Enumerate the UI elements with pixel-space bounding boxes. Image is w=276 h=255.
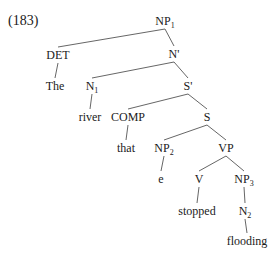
node-label: N bbox=[239, 204, 248, 218]
tree-node-stopped: stopped bbox=[178, 205, 215, 217]
tree-branch bbox=[244, 187, 245, 203]
node-label: COMP bbox=[111, 110, 145, 124]
tree-branch bbox=[126, 125, 128, 140]
tree-branch bbox=[199, 156, 226, 171]
tree-branch bbox=[128, 94, 188, 109]
tree-node-e: e bbox=[158, 173, 163, 185]
tree-node-det: DET bbox=[46, 49, 69, 61]
node-subscript: 1 bbox=[171, 21, 175, 30]
tree-node-vp: VP bbox=[218, 142, 233, 154]
tree-branch bbox=[161, 156, 164, 171]
tree-branch bbox=[55, 63, 58, 78]
node-subscript: 3 bbox=[250, 179, 254, 188]
node-label: V bbox=[195, 172, 204, 186]
tree-node-np3: NP3 bbox=[234, 173, 253, 185]
node-label: stopped bbox=[178, 204, 215, 218]
tree-branch bbox=[174, 62, 188, 78]
tree-branch bbox=[245, 219, 247, 233]
tree-node-the: The bbox=[46, 80, 65, 92]
tree-branch bbox=[207, 125, 226, 140]
node-label: DET bbox=[46, 48, 69, 62]
node-label: S' bbox=[184, 79, 193, 93]
node-label: S bbox=[204, 110, 211, 124]
tree-node-s: S bbox=[204, 111, 211, 123]
node-subscript: 2 bbox=[247, 211, 251, 220]
tree-node-flooding: flooding bbox=[227, 235, 268, 247]
node-label: NP bbox=[154, 141, 169, 155]
tree-branch bbox=[90, 94, 92, 109]
tree-branch bbox=[58, 29, 165, 47]
tree-branch bbox=[188, 94, 207, 109]
node-label: NP bbox=[155, 14, 170, 28]
tree-node-n2: N2 bbox=[239, 205, 252, 217]
tree-branch bbox=[165, 29, 174, 46]
tree-branch bbox=[197, 187, 199, 203]
node-label: river bbox=[79, 110, 102, 124]
tree-node-nbar: N' bbox=[169, 48, 180, 60]
tree-node-v: V bbox=[195, 173, 204, 185]
node-label: that bbox=[117, 141, 135, 155]
tree-edges bbox=[0, 0, 276, 255]
tree-node-that: that bbox=[117, 142, 135, 154]
tree-node-n1: N1 bbox=[86, 80, 99, 92]
node-label: The bbox=[46, 79, 65, 93]
node-subscript: 2 bbox=[170, 148, 174, 157]
tree-node-np1: NP1 bbox=[155, 15, 174, 27]
tree-node-sbar: S' bbox=[184, 80, 193, 92]
tree-branch bbox=[164, 125, 207, 140]
tree-node-np2: NP2 bbox=[154, 142, 173, 154]
tree-branch bbox=[92, 62, 174, 78]
node-label: N bbox=[86, 79, 95, 93]
node-label: N' bbox=[169, 47, 180, 61]
tree-node-comp: COMP bbox=[111, 111, 145, 123]
node-label: flooding bbox=[227, 234, 268, 248]
tree-node-river: river bbox=[79, 111, 102, 123]
node-subscript: 1 bbox=[94, 86, 98, 95]
node-label: VP bbox=[218, 141, 233, 155]
syntax-tree: NP1DETN'TheN1S'riverCOMPSthatNP2VPeVNP3s… bbox=[0, 0, 276, 255]
tree-branch bbox=[226, 156, 244, 171]
node-label: e bbox=[158, 172, 163, 186]
node-label: NP bbox=[234, 172, 249, 186]
